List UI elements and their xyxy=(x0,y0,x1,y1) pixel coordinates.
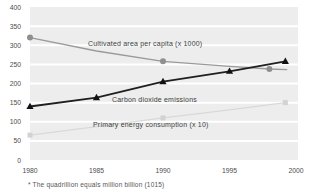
series-label-primary-energy-consumption: Primary energy consumption (x 10) xyxy=(93,121,209,128)
y-axis-tick-label: 50 xyxy=(13,137,21,144)
series-marker-cultivated-area-per-capita xyxy=(27,35,33,41)
series-label-carbon-dioxide-emissions: Carbon dioxide emissions xyxy=(112,96,197,103)
series-marker-cultivated-area-per-capita xyxy=(160,58,166,64)
x-axis-tick-label: 2000 xyxy=(288,167,303,174)
y-axis-tick-label: 250 xyxy=(10,61,22,68)
series-marker-primary-energy-consumption xyxy=(161,115,166,120)
series-marker-primary-energy-consumption xyxy=(28,133,33,138)
series-label-cultivated-area: Cultivated area per capita (x 1000) xyxy=(88,40,202,47)
x-axis-tick-label: 1980 xyxy=(22,167,37,174)
y-axis-tick-label: 400 xyxy=(10,4,22,11)
y-axis-tick-label: 0 xyxy=(17,157,21,164)
x-axis-tick-label: 1985 xyxy=(89,167,104,174)
y-axis-tick-label: 300 xyxy=(10,42,22,49)
line-chart: 0501001502002503003504001980198519901995… xyxy=(0,0,309,193)
y-axis-tick-label: 350 xyxy=(10,23,22,30)
x-axis-tick-label: 1990 xyxy=(155,167,170,174)
y-axis-tick-label: 200 xyxy=(10,80,22,87)
series-marker-primary-energy-consumption xyxy=(283,100,288,105)
y-axis-tick-label: 150 xyxy=(10,99,22,106)
chart-footnote: * The quadrillion equals million billion… xyxy=(28,181,164,188)
y-axis-tick-label: 100 xyxy=(10,118,22,125)
series-marker-cultivated-area-per-capita xyxy=(266,66,272,72)
x-axis-tick-label: 1995 xyxy=(222,167,237,174)
